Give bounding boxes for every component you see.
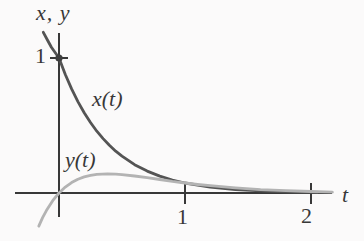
t-axis-title: t [342, 184, 348, 206]
y-axis-tick-label-1: 1 [35, 45, 46, 67]
initial-point-marker [55, 54, 62, 61]
solution-curves-figure: x, y 1 x(t) y(t) 1 2 t [0, 0, 364, 241]
t-axis-tick-label-2: 2 [301, 205, 312, 227]
t-axis-tick-label-1: 1 [177, 206, 188, 228]
curve-label-y-of-t: y(t) [65, 149, 96, 171]
curve-label-x-of-t: x(t) [92, 88, 123, 110]
y-axis-title: x, y [36, 2, 71, 24]
